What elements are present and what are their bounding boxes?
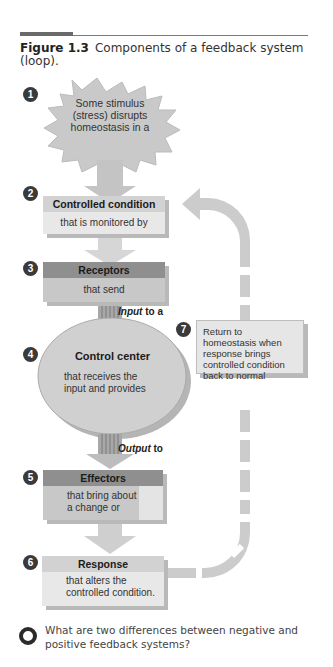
step-number-1: 1 (23, 87, 38, 102)
input-label-rest: to a (142, 306, 163, 317)
return-homeostasis-note: Return to homeostasis when response brin… (196, 320, 304, 374)
input-label-em: Input (118, 306, 142, 317)
step-number-2: 2 (23, 186, 38, 201)
controlled-condition-text: that is monitored by (43, 212, 165, 234)
effectors-text: that bring about a change or (43, 486, 139, 520)
output-label-rest: to (151, 443, 163, 454)
controlled-condition-box: Controlled condition that is monitored b… (43, 196, 165, 234)
output-label-em: Output (118, 443, 151, 454)
response-text: that alters the controlled condition. (42, 572, 164, 606)
step-number-4: 4 (23, 347, 38, 362)
effectors-box: Effectors that bring about a change or (43, 470, 163, 520)
control-center-header: Control center (55, 350, 170, 362)
receptors-box: Receptors that send (43, 262, 165, 302)
output-label: Output to (118, 443, 163, 454)
review-question: What are two differences between negativ… (45, 623, 315, 651)
question-icon: Q (19, 627, 37, 645)
effectors-header: Effectors (43, 470, 163, 486)
control-center-text: that receives the input and provides (64, 371, 159, 395)
step-number-3: 3 (23, 261, 38, 276)
step-number-5: 5 (23, 470, 38, 485)
receptors-header: Receptors (43, 262, 165, 278)
input-label: Input to a (118, 306, 163, 317)
stimulus-text: Some stimulus (stress) disrupts homeosta… (65, 97, 155, 133)
receptors-text: that send (43, 278, 165, 302)
response-header: Response (42, 556, 164, 572)
step-number-6: 6 (23, 555, 38, 570)
controlled-condition-header: Controlled condition (43, 196, 165, 212)
response-box: Response that alters the controlled cond… (42, 556, 164, 606)
step-number-7: 7 (176, 322, 191, 337)
